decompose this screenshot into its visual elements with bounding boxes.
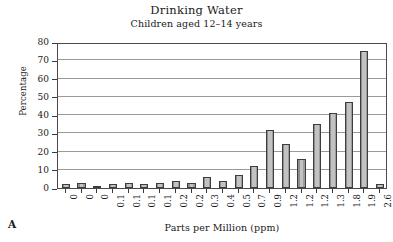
bar — [156, 183, 164, 188]
x-tick-mark — [332, 189, 333, 193]
x-tick-mark — [301, 189, 302, 193]
bar — [219, 181, 227, 188]
x-tick-mark — [285, 189, 286, 193]
bar — [187, 183, 195, 188]
bar — [140, 184, 148, 188]
bar — [203, 177, 211, 188]
x-tick-mark — [191, 189, 192, 193]
bar — [360, 51, 368, 188]
bar — [345, 102, 353, 188]
chart-title: Drinking Water — [0, 3, 393, 17]
chart-figure: Drinking Water Children aged 12–14 years… — [0, 0, 393, 242]
bar — [297, 159, 305, 188]
bar — [250, 166, 258, 188]
y-tick-label: 70 — [38, 55, 49, 66]
x-tick-mark — [128, 189, 129, 193]
y-tick-label: 40 — [38, 110, 49, 121]
panel-label: A — [8, 218, 16, 230]
x-tick-mark — [206, 189, 207, 193]
bar — [282, 144, 290, 188]
bar — [172, 181, 180, 188]
y-tick-label: 10 — [38, 165, 49, 176]
x-tick-mark — [238, 189, 239, 193]
bar — [313, 124, 321, 188]
y-tick-label: 50 — [38, 92, 49, 103]
x-tick-mark — [269, 189, 270, 193]
x-tick-mark — [379, 189, 380, 193]
y-tick-label: 60 — [38, 74, 49, 85]
x-tick-mark — [253, 189, 254, 193]
bar — [235, 175, 243, 188]
x-tick-mark — [222, 189, 223, 193]
bar — [93, 186, 101, 188]
x-tick-mark — [65, 189, 66, 193]
x-tick-mark — [112, 189, 113, 193]
x-tick-mark — [348, 189, 349, 193]
x-tick-mark — [143, 189, 144, 193]
chart-subtitle: Children aged 12–14 years — [0, 17, 393, 30]
x-tick-mark — [81, 189, 82, 193]
x-tick-mark — [175, 189, 176, 193]
x-tick-mark — [96, 189, 97, 193]
y-tick-label: 0 — [43, 183, 49, 194]
bar — [62, 184, 70, 188]
y-tick-label: 20 — [38, 147, 49, 158]
y-tick-label: 80 — [38, 37, 49, 48]
y-tick-label: 30 — [38, 128, 49, 139]
bar — [266, 130, 274, 188]
y-axis-ticks: 01020304050607080 — [0, 43, 57, 189]
x-tick-mark — [159, 189, 160, 193]
x-tick-mark — [363, 189, 364, 193]
bar — [77, 183, 85, 188]
chart-title-block: Drinking Water Children aged 12–14 years — [0, 3, 393, 30]
x-tick-mark — [316, 189, 317, 193]
bar — [329, 113, 337, 188]
plot-area — [57, 43, 387, 189]
x-axis-label: Parts per Million (ppm) — [57, 222, 387, 233]
bar-series — [58, 44, 386, 188]
bar — [125, 183, 133, 188]
bar — [376, 184, 384, 188]
bar — [109, 184, 117, 188]
